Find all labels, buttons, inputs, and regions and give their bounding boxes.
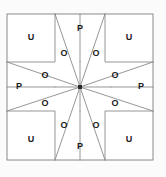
label-star-point-bottom-left: O	[60, 120, 67, 130]
label-star-point-left-upper: O	[41, 70, 48, 80]
star-block-drawing: U P U O O O O P P O O O O U P U	[0, 0, 166, 177]
label-corner-bottom-right: U	[126, 134, 133, 144]
label-edge-right: P	[138, 81, 144, 91]
label-edge-top: P	[77, 23, 83, 33]
label-star-point-right-upper: O	[111, 70, 118, 80]
quilt-block-figure: U P U O O O O P P O O O O U P U	[0, 0, 166, 177]
label-star-point-top-right: O	[92, 48, 99, 58]
label-corner-bottom-left: U	[28, 134, 35, 144]
label-edge-bottom: P	[77, 141, 83, 151]
label-corner-top-left: U	[28, 32, 35, 42]
label-star-point-bottom-right: O	[92, 120, 99, 130]
label-star-point-right-lower: O	[111, 98, 118, 108]
label-star-point-left-lower: O	[41, 98, 48, 108]
label-corner-top-right: U	[126, 32, 133, 42]
label-edge-left: P	[16, 81, 22, 91]
label-star-point-top-left: O	[60, 48, 67, 58]
center-point-marker	[78, 85, 82, 89]
